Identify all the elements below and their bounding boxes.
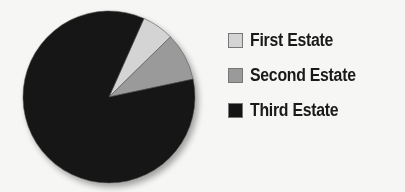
legend-item-first-estate: First Estate bbox=[228, 30, 370, 50]
legend-label: Second Estate bbox=[250, 65, 356, 86]
legend-swatch-first-estate bbox=[228, 33, 243, 48]
legend-item-second-estate: Second Estate bbox=[228, 65, 370, 85]
legend: First Estate Second Estate Third Estate bbox=[228, 30, 370, 135]
pie-chart bbox=[0, 0, 220, 192]
legend-label: Third Estate bbox=[250, 100, 338, 121]
legend-label: First Estate bbox=[250, 30, 333, 51]
legend-swatch-second-estate bbox=[228, 68, 243, 83]
legend-swatch-third-estate bbox=[228, 103, 243, 118]
legend-item-third-estate: Third Estate bbox=[228, 100, 370, 120]
